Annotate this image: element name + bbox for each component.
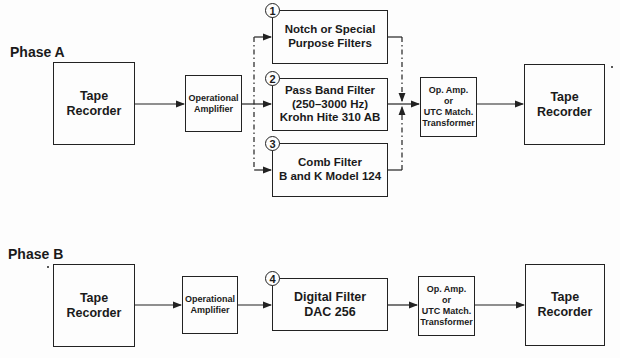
box-text: Pass Band Filter xyxy=(285,84,375,98)
filter-box-pass-band: Pass Band Filter (250–3000 Hz) Krohn Hit… xyxy=(272,78,388,131)
box-text: (250–3000 Hz) xyxy=(292,98,368,112)
box-text: Amplifier xyxy=(190,305,229,316)
box-text: Recorder xyxy=(67,306,122,321)
filter-number-badge: 3 xyxy=(265,136,280,151)
box-text: Recorder xyxy=(537,105,592,120)
box-text: UTC Match. xyxy=(424,107,474,118)
box-text: Tape xyxy=(80,291,108,306)
box-text: Recorder xyxy=(67,104,122,119)
box-text: Digital Filter xyxy=(294,290,366,305)
box-text: or xyxy=(444,96,453,107)
phase-a-destination-tape-recorder: Tape Recorder xyxy=(524,64,605,145)
box-text: Amplifier xyxy=(194,104,233,115)
filter-number-badge: 2 xyxy=(265,71,280,86)
box-text: Op. Amp. xyxy=(429,85,469,96)
box-text: B and K Model 124 xyxy=(279,170,381,184)
box-text: Operational xyxy=(185,294,235,305)
phase-b-destination-tape-recorder: Tape Recorder xyxy=(525,264,605,346)
phase-a-operational-amplifier: Operational Amplifier xyxy=(185,75,242,132)
box-text: Krohn Hite 310 AB xyxy=(280,111,381,125)
phase-b-source-tape-recorder: Tape Recorder xyxy=(53,264,135,347)
filter-number-badge: 4 xyxy=(265,271,280,286)
marker-dot xyxy=(47,266,49,268)
filter-number-badge: 1 xyxy=(265,3,280,18)
box-text: Operational xyxy=(188,93,238,104)
box-text: Recorder xyxy=(538,305,593,320)
box-text: Tape xyxy=(80,89,108,104)
phase-b-label: Phase B xyxy=(8,246,63,262)
phase-b-op-amp-or-transformer: Op. Amp. or UTC Match. Transformer xyxy=(418,276,475,336)
box-text: Transformer xyxy=(420,317,473,328)
filter-box-digital: Digital Filter DAC 256 xyxy=(272,278,388,331)
box-text: Notch or Special xyxy=(285,23,376,37)
filter-box-comb: Comb Filter B and K Model 124 xyxy=(272,143,388,197)
box-text: Tape xyxy=(551,290,579,305)
box-text: UTC Match. xyxy=(422,306,472,317)
box-text: Purpose Filters xyxy=(288,37,372,51)
phase-a-source-tape-recorder: Tape Recorder xyxy=(53,62,135,145)
box-text: DAC 256 xyxy=(304,305,355,320)
box-text: Tape xyxy=(550,90,578,105)
marker-dot xyxy=(611,66,613,68)
box-text: Op. Amp. xyxy=(427,284,467,295)
filter-box-notch: Notch or Special Purpose Filters xyxy=(272,10,388,64)
phase-b-operational-amplifier: Operational Amplifier xyxy=(182,276,238,334)
phase-a-label: Phase A xyxy=(10,44,65,60)
box-text: Comb Filter xyxy=(298,156,362,170)
box-text: or xyxy=(442,295,451,306)
phase-a-op-amp-or-transformer: Op. Amp. or UTC Match. Transformer xyxy=(420,77,477,137)
box-text: Transformer xyxy=(422,118,475,129)
